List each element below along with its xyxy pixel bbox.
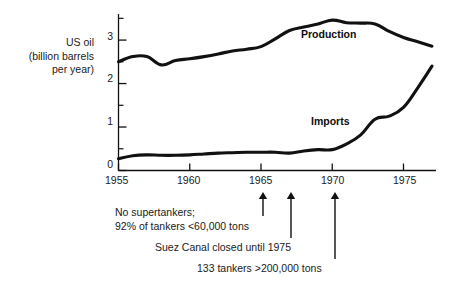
annotation-no-supertankers-line-2: 92% of tankers <60,000 tons (115, 219, 249, 233)
arrow-1967-head (287, 192, 295, 199)
arrow-1965-head (259, 192, 267, 199)
x-tick-label-1955: 1955 (105, 174, 128, 186)
x-tick-label-1965: 1965 (249, 174, 272, 186)
x-tick-label-1975: 1975 (393, 174, 416, 186)
y-axis-title-line-3: per year) (52, 63, 94, 77)
series-label-production: Production (301, 28, 356, 40)
imports-line (119, 66, 433, 159)
x-axis-ticks (119, 164, 404, 171)
y-tick-label-1: 1 (107, 115, 113, 127)
y-tick-label-2: 2 (107, 72, 113, 84)
y-tick-label-3: 3 (107, 30, 113, 42)
y-axis-title-line-2: (billion barrels (29, 50, 94, 64)
annotation-suez-canal: Suez Canal closed until 1975 (155, 240, 291, 254)
y-tick-label-0: 0 (107, 158, 113, 170)
production-line (119, 20, 433, 65)
arrow-1970-head (331, 192, 339, 199)
y-axis-ticks (119, 18, 127, 170)
oil-production-imports-chart: US oil (billion barrels per year) 3 2 1 … (0, 0, 449, 281)
annotation-large-tankers: 133 tankers >200,000 tons (197, 261, 322, 275)
annotation-no-supertankers-line-1: No supertankers; (115, 205, 195, 219)
x-tick-label-1960: 1960 (177, 174, 200, 186)
x-tick-label-1970: 1970 (321, 174, 344, 186)
series-label-imports: Imports (311, 115, 350, 127)
y-axis-title-line-1: US oil (66, 36, 94, 50)
